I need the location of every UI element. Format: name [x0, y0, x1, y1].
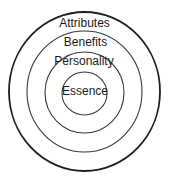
concentric-layers-diagram: Attributes Benefits Personality Essence: [0, 0, 169, 183]
ring-essence: Essence: [62, 72, 108, 115]
ring-personality-label: Personality: [54, 54, 113, 68]
ring-attributes-label: Attributes: [59, 16, 110, 30]
ring-benefits-label: Benefits: [64, 35, 107, 49]
ring-essence-label: Essence: [62, 84, 108, 98]
